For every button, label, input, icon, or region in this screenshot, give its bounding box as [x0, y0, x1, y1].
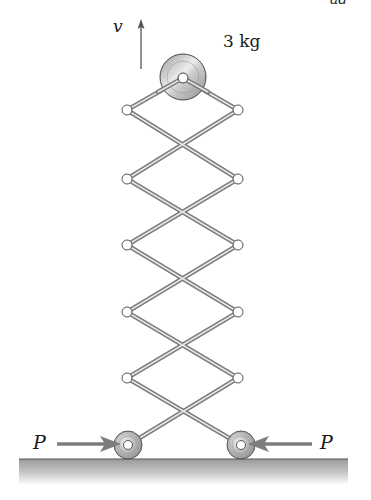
force-right-label: P	[320, 431, 333, 453]
diagram-canvas	[0, 0, 371, 500]
ground	[19, 459, 348, 485]
velocity-arrow	[138, 19, 145, 69]
scissor-links	[127, 78, 241, 445]
scissor-lift-diagram: ad v 3 kg P P	[0, 0, 371, 500]
corner-mark: ad	[330, 0, 347, 7]
mass-label: 3 kg	[223, 31, 260, 51]
mass-disk	[158, 54, 208, 100]
velocity-label: v	[113, 16, 123, 36]
force-arrow-left	[57, 436, 121, 452]
force-arrow-right	[248, 436, 312, 452]
force-left-label: P	[33, 431, 46, 453]
